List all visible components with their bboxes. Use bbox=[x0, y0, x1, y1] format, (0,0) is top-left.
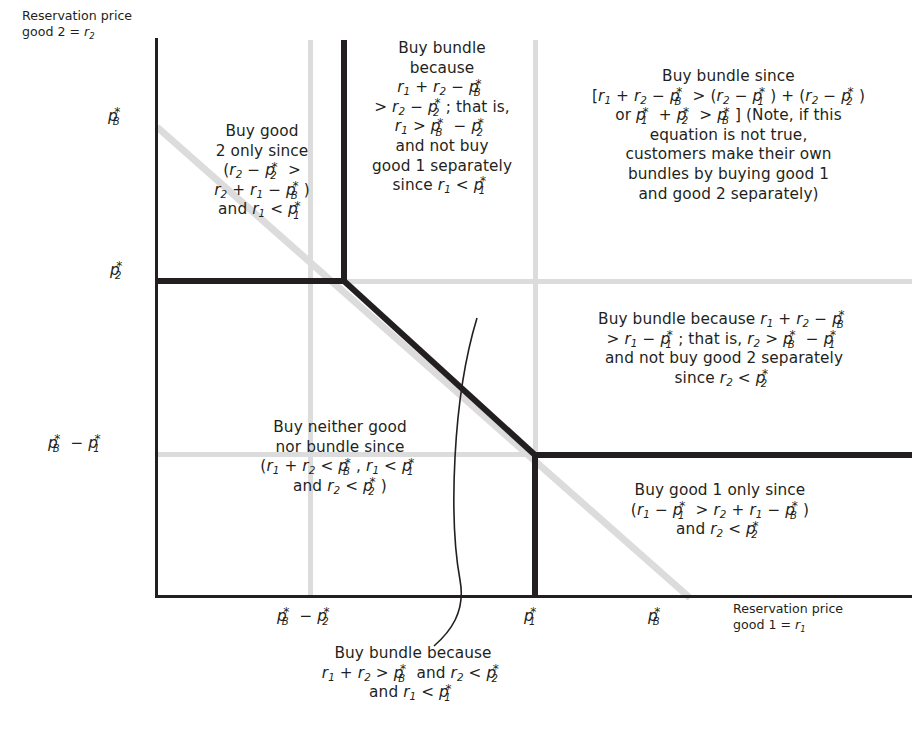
region-buy-good-2-only-line-3: (r2 − p2* > bbox=[178, 161, 346, 181]
y-tick-pb-minus-p1: pB* − p1* bbox=[48, 435, 106, 452]
region-buy-good-2-only-line-5: and r1 < p1* bbox=[178, 200, 346, 220]
region-buy-good-1-only-line-2: (r1 − p1* > r2 + r1 − pB*) bbox=[560, 501, 880, 521]
x-tick-pb: pB* bbox=[648, 608, 666, 625]
region-buy-good-2-only-line-2: 2 only since bbox=[178, 142, 346, 162]
x-tick-pb-minus-p2: pB* − p2* bbox=[277, 608, 335, 625]
region-buy-bundle-middle-right-line-4: since r2 < p2* bbox=[536, 369, 912, 389]
region-buy-bundle-middle-right-line-2: > r1 − p1*; that is, r2 > pB* − p1* bbox=[536, 330, 912, 350]
region-buy-bundle-top-middle: Buy bundle because r1 + r2 − pB* > r2 − … bbox=[352, 39, 532, 196]
y-tick-pb: pB* bbox=[108, 108, 126, 125]
region-buy-bundle-callout-line-2: r1 + r2 > pB* and r2 < p2* bbox=[243, 664, 583, 684]
x-tick-p1: p1* bbox=[524, 608, 542, 625]
region-buy-bundle-top-right-line-6: bundles by buying good 1 bbox=[545, 165, 912, 185]
region-buy-neither-line-1: Buy neither good bbox=[196, 418, 484, 438]
region-buy-neither-line-2: nor bundle since bbox=[196, 438, 484, 458]
region-buy-bundle-top-right: Buy bundle since [r1 + r2 − pB* > (r2 − … bbox=[545, 67, 912, 204]
region-buy-good-2-only-line-1: Buy good bbox=[178, 122, 346, 142]
y-tick-p2: p2* bbox=[110, 262, 128, 279]
region-buy-bundle-top-middle-line-2: because bbox=[352, 59, 532, 79]
region-buy-bundle-callout: Buy bundle because r1 + r2 > pB* and r2 … bbox=[243, 644, 583, 703]
region-buy-bundle-top-middle-line-8: since r1 < p1* bbox=[352, 176, 532, 196]
region-buy-bundle-top-middle-line-5: r1 > pB* − p2* bbox=[352, 117, 532, 137]
region-buy-bundle-top-right-line-1: Buy bundle since bbox=[545, 67, 912, 87]
region-buy-neither: Buy neither good nor bundle since (r1 + … bbox=[196, 418, 484, 496]
region-buy-bundle-callout-line-1: Buy bundle because bbox=[243, 644, 583, 664]
region-buy-bundle-top-middle-line-7: good 1 separately bbox=[352, 157, 532, 177]
region-buy-good-1-only: Buy good 1 only since (r1 − p1* > r2 + r… bbox=[560, 481, 880, 540]
region-buy-bundle-top-right-line-5: customers make their own bbox=[545, 145, 912, 165]
diagram-canvas: Reservation price good 2 = r2 Reservatio… bbox=[0, 0, 912, 734]
region-buy-bundle-middle-right-line-1: Buy bundle because r1 + r2 − pB* bbox=[536, 310, 912, 330]
region-buy-bundle-top-middle-line-3: r1 + r2 − pB* bbox=[352, 78, 532, 98]
region-buy-good-2-only: Buy good 2 only since (r2 − p2* > r2 + r… bbox=[178, 122, 346, 220]
region-buy-bundle-callout-line-3: and r1 < p1* bbox=[243, 683, 583, 703]
region-buy-bundle-middle-right-line-3: and not buy good 2 separately bbox=[536, 349, 912, 369]
region-buy-good-2-only-line-4: r2 + r1 − pB*) bbox=[178, 181, 346, 201]
region-buy-bundle-top-middle-line-1: Buy bundle bbox=[352, 39, 532, 59]
region-buy-bundle-top-right-line-7: and good 2 separately) bbox=[545, 185, 912, 205]
region-buy-bundle-middle-right: Buy bundle because r1 + r2 − pB* > r1 − … bbox=[536, 310, 912, 388]
region-buy-good-1-only-line-3: and r2 < p2* bbox=[560, 520, 880, 540]
region-buy-good-1-only-line-1: Buy good 1 only since bbox=[560, 481, 880, 501]
region-buy-neither-line-3: (r1 + r2 < pB*, r1 < p1* bbox=[196, 457, 484, 477]
region-buy-bundle-top-right-line-3: or p1* + p2* > pB*] (Note, if this bbox=[545, 106, 912, 126]
region-buy-neither-line-4: and r2 < p2*) bbox=[196, 477, 484, 497]
